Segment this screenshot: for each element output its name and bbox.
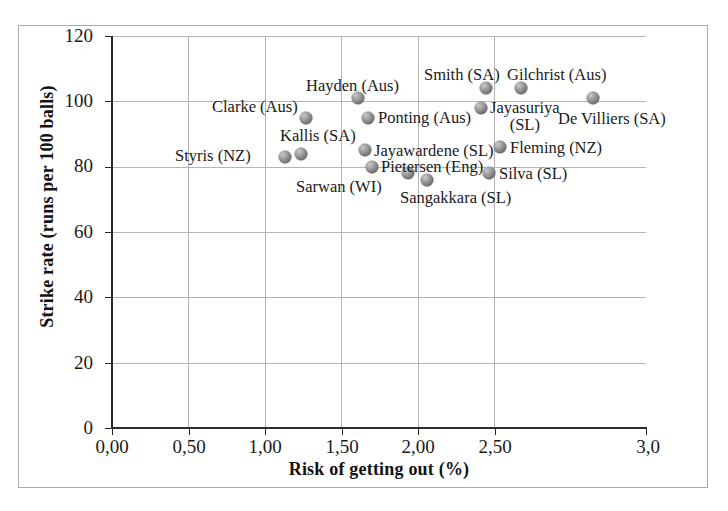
point-label-fleming: Fleming (NZ) (510, 139, 602, 156)
x-tick-mark-0_00 (112, 428, 113, 435)
y-axis-title: Strike rate (runs per 100 balls) (37, 42, 58, 372)
data-point-fleming[interactable] (494, 141, 507, 154)
data-point-devilliers[interactable] (586, 92, 599, 105)
x-tick-mark-1_00 (265, 428, 266, 435)
x-tick-label-3_0: 3,0 (608, 436, 688, 458)
gridline-horizontal-20 (112, 363, 646, 364)
point-label-styris: Styris (NZ) (175, 147, 251, 164)
data-point-jayawardene[interactable] (358, 144, 371, 157)
data-point-ponting[interactable] (362, 111, 375, 124)
chart-page: 120 100 80 60 40 20 0 (0, 0, 728, 511)
point-label-pietersen: Pietersen (Eng) (381, 158, 483, 175)
gridline-horizontal-60 (112, 232, 646, 233)
data-point-clarke[interactable] (300, 111, 313, 124)
point-label-sarwan: Sarwan (WI) (296, 178, 382, 195)
plot-area: Styris (NZ) Kallis (SA) Clarke (Aus) Hay… (112, 36, 646, 428)
gridline-horizontal-100 (112, 101, 646, 102)
data-point-jayasuriya[interactable] (474, 101, 487, 114)
point-label-hayden: Hayden (Aus) (306, 77, 399, 94)
x-tick-mark-0_50 (189, 428, 190, 435)
x-axis-title: Risk of getting out (%) (112, 459, 646, 480)
x-tick-label-1_00: 1,00 (225, 436, 305, 458)
point-label-gilchrist: Gilchrist (Aus) (507, 66, 606, 83)
x-tick-label-1_50: 1,50 (302, 436, 382, 458)
data-point-styris[interactable] (278, 150, 291, 163)
point-label-devilliers: De Villiers (SA) (558, 110, 666, 127)
x-tick-mark-1_50 (342, 428, 343, 435)
x-tick-mark-3_0 (646, 428, 647, 435)
data-point-pietersen[interactable] (365, 160, 378, 173)
x-tick-label-2_50: 2,50 (455, 436, 535, 458)
x-tick-label-0_50: 0,50 (149, 436, 229, 458)
y-axis-line (111, 36, 113, 429)
gridline-horizontal-120 (112, 36, 646, 37)
point-label-silva: Silva (SL) (499, 165, 567, 182)
x-tick-mark-2_00 (418, 428, 419, 435)
point-label-ponting: Ponting (Aus) (378, 109, 471, 126)
point-label-jayasuriya: Jayasuriya (SL) (490, 99, 560, 134)
gridline-horizontal-40 (112, 297, 646, 298)
point-label-kallis: Kallis (SA) (280, 127, 356, 144)
x-tick-label-2_00: 2,00 (378, 436, 458, 458)
point-label-smith: Smith (SA) (424, 66, 500, 83)
x-tick-label-0_00: 0,00 (72, 436, 152, 458)
point-label-clarke: Clarke (Aus) (212, 98, 298, 115)
x-axis-line (111, 427, 647, 429)
x-tick-mark-2_50 (495, 428, 496, 435)
data-point-kallis[interactable] (294, 147, 307, 160)
data-point-silva[interactable] (483, 167, 496, 180)
point-label-sangakkara: Sangakkara (SL) (400, 189, 511, 206)
